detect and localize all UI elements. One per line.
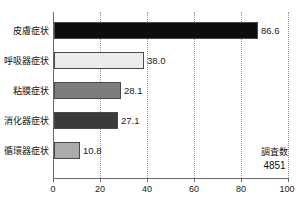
bar <box>54 112 118 129</box>
x-tick-mark <box>288 178 289 182</box>
x-tick-label: 20 <box>95 184 105 195</box>
x-axis-line <box>53 178 289 179</box>
x-tick-label: 100 <box>279 184 294 195</box>
category-label: 消化器症状 <box>0 106 49 136</box>
bar <box>54 82 121 99</box>
x-tick-label: 60 <box>189 184 199 195</box>
x-tick-label: 0 <box>50 184 55 195</box>
x-tick-mark <box>100 178 101 182</box>
category-label: 皮膚症状 <box>0 16 49 46</box>
x-tick-mark <box>53 178 54 182</box>
bar-value-label: 38.0 <box>147 53 166 68</box>
bar-value-label: 28.1 <box>124 83 143 98</box>
x-tick-mark <box>147 178 148 182</box>
x-tick-mark <box>194 178 195 182</box>
bar <box>54 22 258 39</box>
survey-count-label: 調査数 <box>261 145 288 159</box>
bar-row: 循環器症状 10.8 <box>0 136 296 166</box>
x-tick-mark <box>241 178 242 182</box>
survey-count-value: 4851 <box>261 159 288 173</box>
x-tick-label: 40 <box>142 184 152 195</box>
bar-value-label: 27.1 <box>121 113 140 128</box>
bar-value-label: 10.8 <box>83 143 102 158</box>
bar-value-label: 86.6 <box>261 23 280 38</box>
bar <box>54 52 144 69</box>
bar-chart-figure: 皮膚症状 86.6 呼吸器症状 38.0 粘膜症状 28.1 消化器症状 27.… <box>0 0 296 204</box>
bar-row: 呼吸器症状 38.0 <box>0 46 296 76</box>
survey-count-annotation: 調査数 4851 <box>261 145 288 173</box>
category-label: 循環器症状 <box>0 136 49 166</box>
bar-row: 消化器症状 27.1 <box>0 106 296 136</box>
category-label: 粘膜症状 <box>0 76 49 106</box>
category-label: 呼吸器症状 <box>0 46 49 76</box>
bar-row: 粘膜症状 28.1 <box>0 76 296 106</box>
bar <box>54 142 80 159</box>
x-tick-label: 80 <box>236 184 246 195</box>
bar-row: 皮膚症状 86.6 <box>0 16 296 46</box>
